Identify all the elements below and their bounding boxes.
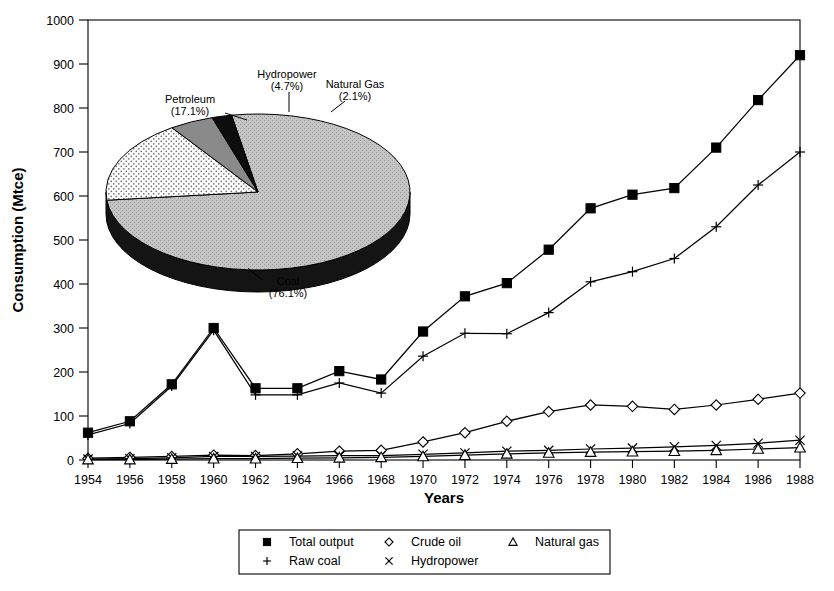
x-tick-label: 1988 xyxy=(786,473,814,487)
y-tick-label: 100 xyxy=(53,410,74,424)
marker-filled-square xyxy=(335,367,344,376)
square-glyph xyxy=(125,417,134,426)
marker-filled-square xyxy=(795,51,804,60)
marker-filled-square xyxy=(712,143,721,152)
square-glyph xyxy=(293,384,302,393)
x-tick-label: 1978 xyxy=(577,473,605,487)
diamond-glyph xyxy=(544,406,554,416)
square-glyph xyxy=(418,327,427,336)
x-tick-label: 1958 xyxy=(158,473,186,487)
x-axis-title-text: Years xyxy=(424,489,464,506)
x-tick-label: 1970 xyxy=(409,473,437,487)
series-crude-oil xyxy=(83,388,805,464)
marker-plus xyxy=(669,253,679,263)
square-glyph xyxy=(544,245,553,254)
diamond-glyph xyxy=(627,401,637,411)
pie-label-natural-gas: Natural Gas xyxy=(326,78,385,90)
pie-leader-natural-gas xyxy=(331,101,345,112)
marker-diamond xyxy=(669,404,679,414)
marker-filled-square xyxy=(83,428,92,437)
diamond-glyph xyxy=(711,400,721,410)
marker-plus xyxy=(627,267,637,277)
y-axis-title: Consumption (Mtce) xyxy=(9,168,26,313)
x-tick-label: 1962 xyxy=(242,473,270,487)
y-tick-label: 400 xyxy=(53,278,74,292)
marker-filled-square xyxy=(125,417,134,426)
square-glyph xyxy=(460,292,469,301)
series-path xyxy=(88,393,800,458)
marker-filled-square xyxy=(377,375,386,384)
marker-filled-square xyxy=(263,538,270,545)
diamond-glyph xyxy=(669,404,679,414)
legend-label-hydropower: Hydropower xyxy=(411,554,478,568)
x-tick-label: 1954 xyxy=(74,473,102,487)
marker-diamond xyxy=(753,394,763,404)
diamond-glyph xyxy=(502,416,512,426)
x-tick-label: 1964 xyxy=(284,473,312,487)
y-tick-label: 900 xyxy=(53,58,74,72)
pie-slices xyxy=(106,114,410,270)
legend-label-crude-oil: Crude oil xyxy=(411,535,461,549)
marker-diamond xyxy=(544,406,554,416)
diamond-glyph xyxy=(460,428,470,438)
square-glyph xyxy=(754,95,763,104)
marker-plus xyxy=(586,277,596,287)
x-tick-label: 1960 xyxy=(200,473,228,487)
square-glyph xyxy=(251,384,260,393)
y-axis-title-text: Consumption (Mtce) xyxy=(9,168,26,313)
square-glyph xyxy=(502,279,511,288)
marker-filled-square xyxy=(754,95,763,104)
diamond-glyph xyxy=(585,400,595,410)
legend-label-natural-gas: Natural gas xyxy=(535,535,599,549)
pie-percent-petroleum: (17.1%) xyxy=(171,105,210,117)
x-tick-label: 1966 xyxy=(325,473,353,487)
marker-plus xyxy=(544,308,554,318)
x-tick-label: 1972 xyxy=(451,473,479,487)
marker-diamond xyxy=(711,400,721,410)
y-tick-label: 200 xyxy=(53,366,74,380)
marker-filled-square xyxy=(586,204,595,213)
diamond-glyph xyxy=(753,394,763,404)
marker-diamond xyxy=(502,416,512,426)
legend-label-total-output: Total output xyxy=(289,535,354,549)
x-axis-ticks: 1954195619581960196219641966196819701972… xyxy=(74,460,814,487)
pie-percent-coal: (76.1%) xyxy=(269,287,308,299)
x-tick-label: 1982 xyxy=(660,473,688,487)
x-tick-label: 1976 xyxy=(535,473,563,487)
square-glyph xyxy=(167,380,176,389)
marker-filled-square xyxy=(418,327,427,336)
square-glyph xyxy=(586,204,595,213)
x-tick-label: 1984 xyxy=(702,473,730,487)
marker-plus xyxy=(460,328,470,338)
y-tick-label: 700 xyxy=(53,146,74,160)
marker-plus xyxy=(334,378,344,388)
marker-diamond xyxy=(460,428,470,438)
chart-page: Consumption (Mtce) 010020030040050060070… xyxy=(0,0,834,591)
x-tick-label: 1956 xyxy=(116,473,144,487)
square-glyph xyxy=(335,367,344,376)
square-glyph xyxy=(377,375,386,384)
marker-filled-square xyxy=(544,245,553,254)
diamond-glyph xyxy=(795,388,805,398)
inset-pie-chart: Petroleum(17.1%)Hydropower(4.7%)Natural … xyxy=(106,68,410,299)
square-glyph xyxy=(795,51,804,60)
marker-plus xyxy=(502,329,512,339)
square-glyph xyxy=(83,428,92,437)
square-glyph xyxy=(263,538,270,545)
square-glyph xyxy=(209,323,218,332)
square-glyph xyxy=(670,183,679,192)
marker-filled-square xyxy=(460,292,469,301)
chart-legend: Total outputCrude oilNatural gasRaw coal… xyxy=(239,530,610,574)
marker-filled-square xyxy=(628,190,637,199)
consumption-line-chart: Consumption (Mtce) 010020030040050060070… xyxy=(0,0,834,591)
x-tick-label: 1986 xyxy=(744,473,772,487)
x-tick-label: 1968 xyxy=(367,473,395,487)
x-tick-label: 1980 xyxy=(619,473,647,487)
pie-label-hydropower: Hydropower xyxy=(257,68,317,80)
y-tick-label: 500 xyxy=(53,234,74,248)
pie-percent-hydropower: (4.7%) xyxy=(271,80,303,92)
marker-filled-square xyxy=(209,323,218,332)
square-glyph xyxy=(712,143,721,152)
diamond-glyph xyxy=(418,437,428,447)
y-tick-label: 800 xyxy=(53,102,74,116)
